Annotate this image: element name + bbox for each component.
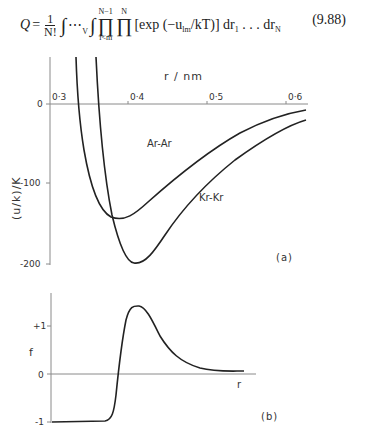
y-axis-label-b: f bbox=[29, 346, 34, 359]
x-axis-label-b: r bbox=[237, 379, 242, 390]
y-tick-label-0: 0 bbox=[37, 99, 43, 109]
y-tick-label-minus100: -100 bbox=[20, 178, 41, 188]
y-tick-label-plus1: +1 bbox=[33, 321, 46, 331]
y-axis-label-a: (u/k)/K bbox=[10, 176, 23, 220]
y-tick-label-minus1: -1 bbox=[35, 417, 44, 427]
panel-b: +1 0 -1 f r (b) bbox=[29, 293, 278, 427]
y-tick-label-minus200: -200 bbox=[20, 259, 41, 269]
x-tick-label-03: 0·3 bbox=[52, 92, 66, 102]
x-axis-label-a: r / nm bbox=[164, 70, 203, 83]
panel-a: 0 -100 -200 0·3 0·4 0·5 0·6 r / nm (u/k)… bbox=[10, 57, 308, 269]
panel-a-label: (a) bbox=[276, 252, 293, 263]
x-tick-label-05: 0·5 bbox=[209, 92, 223, 102]
f-curve bbox=[52, 306, 244, 422]
kr-kr-curve bbox=[96, 57, 306, 263]
y-tick-label-0-b: 0 bbox=[38, 370, 44, 380]
kr-kr-label: Kr-Kr bbox=[199, 192, 224, 203]
figure: 0 -100 -200 0·3 0·4 0·5 0·6 r / nm (u/k)… bbox=[0, 0, 374, 436]
x-tick-label-04: 0·4 bbox=[130, 92, 145, 102]
ar-ar-label: Ar-Ar bbox=[147, 138, 173, 149]
x-tick-label-06: 0·6 bbox=[288, 92, 303, 102]
panel-b-label: (b) bbox=[261, 411, 278, 422]
